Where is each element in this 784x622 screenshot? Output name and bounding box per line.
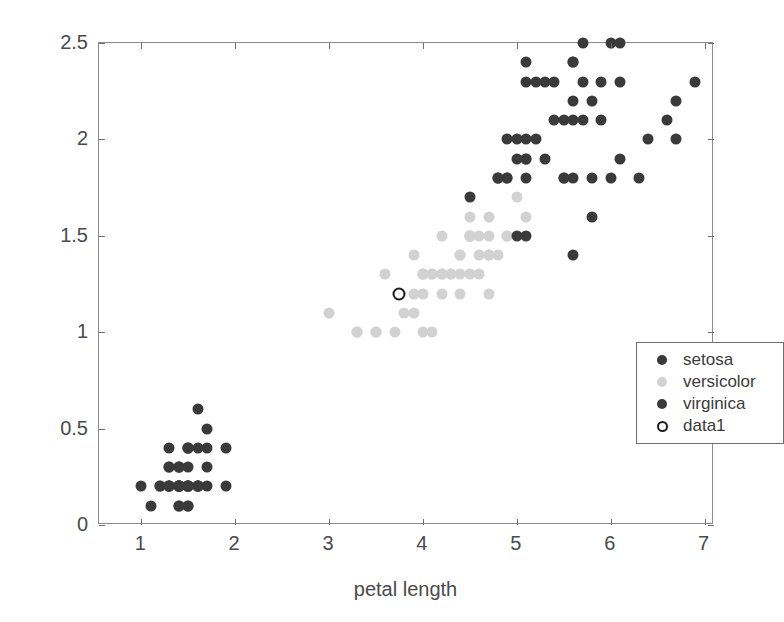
legend-item-versicolor[interactable]: versicolor (637, 371, 783, 393)
y-tick-label: 0 (77, 513, 88, 536)
data-point-virginica (615, 76, 626, 87)
legend-item-label: data1 (683, 416, 726, 436)
data-point-virginica (511, 153, 522, 164)
legend-marker-shape (657, 421, 668, 432)
data-point-versicolor (483, 211, 494, 222)
legend-marker-shape (657, 355, 667, 365)
y-tick-mark (99, 429, 105, 430)
data-point-versicolor (474, 250, 485, 261)
data-point-virginica (671, 134, 682, 145)
y-tick-label: 2.5 (60, 31, 88, 54)
x-tick-mark-top (235, 43, 236, 49)
x-tick-mark-top (423, 43, 424, 49)
y-tick-mark (99, 525, 105, 526)
data-point-setosa (173, 481, 184, 492)
x-tick-mark (141, 519, 142, 525)
x-tick-mark (517, 519, 518, 525)
data-point-virginica (586, 172, 597, 183)
data-point-virginica (662, 115, 673, 126)
data-point-virginica (521, 172, 532, 183)
y-tick-mark (99, 43, 105, 44)
data-point-setosa (183, 462, 194, 473)
data-point-versicolor (511, 192, 522, 203)
data-point-virginica (511, 134, 522, 145)
open-circle-icon (651, 421, 673, 432)
y-tick-label: 0.5 (60, 416, 88, 439)
data-point-setosa (201, 442, 212, 453)
data-point-versicolor (324, 307, 335, 318)
data-point-virginica (671, 95, 682, 106)
data-point-setosa (173, 462, 184, 473)
legend-item-data1[interactable]: data1 (637, 415, 783, 437)
data-point-virginica (577, 76, 588, 87)
data-point-versicolor (389, 327, 400, 338)
plot-axes-area: setosaversicolorvirginicadata1 (98, 42, 713, 524)
x-tick-mark (329, 519, 330, 525)
legend-item-label: versicolor (683, 372, 756, 392)
data-point-virginica (539, 153, 550, 164)
legend-item-label: setosa (683, 350, 733, 370)
data-point-virginica (615, 38, 626, 49)
data-point-versicolor (483, 288, 494, 299)
data-point-virginica (568, 95, 579, 106)
data-point-virginica (549, 115, 560, 126)
data-point-versicolor (427, 269, 438, 280)
data-point-virginica (568, 115, 579, 126)
data-point-setosa (164, 442, 175, 453)
data-point-virginica (586, 95, 597, 106)
x-axis-label: petal length (98, 578, 713, 601)
x-tick-mark-top (329, 43, 330, 49)
y-tick-mark-right (708, 43, 714, 44)
data-point-versicolor (455, 250, 466, 261)
data-point-versicolor (483, 230, 494, 241)
data-point-versicolor (427, 327, 438, 338)
data-point-versicolor (455, 288, 466, 299)
data-point-setosa (201, 423, 212, 434)
legend-item-virginica[interactable]: virginica (637, 393, 783, 415)
data-point-versicolor (455, 269, 466, 280)
data-point-setosa (173, 500, 184, 511)
x-tick-label: 1 (135, 532, 146, 555)
x-tick-mark-top (517, 43, 518, 49)
x-tick-mark (611, 519, 612, 525)
data-points-layer (99, 43, 712, 523)
y-tick-mark (99, 332, 105, 333)
data-point-versicolor (464, 211, 475, 222)
x-tick-mark (423, 519, 424, 525)
data-point-versicolor (446, 269, 457, 280)
data-point-versicolor (464, 230, 475, 241)
x-tick-label: 6 (604, 532, 615, 555)
data-point-versicolor (474, 269, 485, 280)
data-point-setosa (192, 404, 203, 415)
x-tick-label: 3 (322, 532, 333, 555)
legend-box[interactable]: setosaversicolorvirginicadata1 (636, 342, 784, 444)
y-tick-mark (99, 139, 105, 140)
legend-marker-shape (657, 399, 667, 409)
data-point-virginica (530, 76, 541, 87)
x-tick-label: 4 (416, 532, 427, 555)
y-tick-mark-right (708, 236, 714, 237)
x-tick-mark-top (141, 43, 142, 49)
y-tick-mark-right (708, 525, 714, 526)
data-point-virginica (521, 153, 532, 164)
data-point-data1 (393, 287, 406, 300)
data-point-versicolor (436, 288, 447, 299)
x-tick-label: 7 (698, 532, 709, 555)
data-point-versicolor (417, 288, 428, 299)
data-point-versicolor (408, 250, 419, 261)
data-point-virginica (502, 172, 513, 183)
x-tick-mark-top (611, 43, 612, 49)
data-point-virginica (502, 134, 513, 145)
legend-item-setosa[interactable]: setosa (637, 349, 783, 371)
data-point-virginica (633, 172, 644, 183)
x-tick-mark-top (705, 43, 706, 49)
legend-marker-shape (657, 377, 667, 387)
data-point-setosa (145, 500, 156, 511)
y-tick-label: 1 (77, 320, 88, 343)
data-point-virginica (577, 38, 588, 49)
y-tick-mark (99, 236, 105, 237)
filled-circle-icon (651, 355, 673, 365)
data-point-setosa (201, 462, 212, 473)
x-tick-mark (705, 519, 706, 525)
